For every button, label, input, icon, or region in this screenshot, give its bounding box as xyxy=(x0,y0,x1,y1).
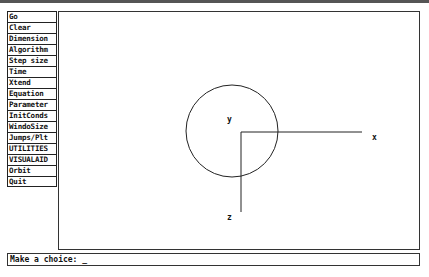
menu-item-go[interactable]: Go xyxy=(7,11,57,22)
menu-item-jumps-plt[interactable]: Jumps/Plt xyxy=(7,132,57,143)
axes-drawing xyxy=(59,12,421,251)
menu-item-visualaid[interactable]: VISUALAID xyxy=(7,154,57,165)
menu-item-step-size[interactable]: Step size xyxy=(7,55,57,66)
menu-item-dimension[interactable]: Dimension xyxy=(7,33,57,44)
y-axis-label: y xyxy=(227,115,232,124)
menu-item-utilities[interactable]: UTILITIES xyxy=(7,143,57,154)
menu-item-initconds[interactable]: InitConds xyxy=(7,110,57,121)
menu-item-algorithm[interactable]: Algorithm xyxy=(7,44,57,55)
plot-window[interactable]: y x z xyxy=(58,11,420,250)
menu-item-orbit[interactable]: Orbit xyxy=(7,165,57,176)
menu-item-time[interactable]: Time xyxy=(7,66,57,77)
menu-item-xtend[interactable]: Xtend xyxy=(7,77,57,88)
window-top-border xyxy=(0,0,429,3)
menu-item-windosize[interactable]: WindoSize xyxy=(7,121,57,132)
menu-item-equation[interactable]: Equation xyxy=(7,88,57,99)
x-axis-label: x xyxy=(372,133,377,142)
menu-item-parameter[interactable]: Parameter xyxy=(7,99,57,110)
orbit-circle xyxy=(186,85,278,177)
menu-item-clear[interactable]: Clear xyxy=(7,22,57,33)
main-menu: Go Clear Dimension Algorithm Step size T… xyxy=(7,11,57,187)
command-prompt[interactable]: Make a choice: _ xyxy=(7,253,420,266)
menu-item-quit[interactable]: Quit xyxy=(7,176,57,187)
z-axis-label: z xyxy=(227,213,232,222)
